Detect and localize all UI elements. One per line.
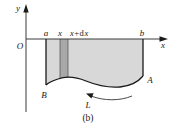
figure-container: y x O a x x+ d x b A B L (b)	[0, 0, 176, 123]
contour-label-L: L	[84, 100, 90, 110]
origin-label: O	[17, 41, 24, 51]
tick-label-differential-variable: x	[84, 28, 89, 38]
y-axis-label: y	[15, 3, 20, 13]
x-axis-label: x	[160, 40, 165, 50]
tick-label-a: a	[44, 28, 49, 38]
y-axis-arrowhead	[23, 4, 28, 13]
tick-label-x: x	[57, 28, 62, 38]
orientation-arrowhead	[86, 93, 94, 98]
element-strip	[60, 39, 68, 79]
tick-label-x-plus-dx-prefix: x+	[69, 28, 80, 38]
orientation-arc	[91, 96, 132, 100]
tick-label-x-plus-dx: x+ d x	[69, 28, 89, 38]
point-label-A: A	[146, 75, 153, 85]
integration-region-diagram: y x O a x x+ d x b A B L (b)	[0, 0, 176, 123]
figure-caption: (b)	[82, 113, 93, 123]
point-label-B: B	[41, 90, 47, 100]
tick-label-b: b	[140, 28, 145, 38]
